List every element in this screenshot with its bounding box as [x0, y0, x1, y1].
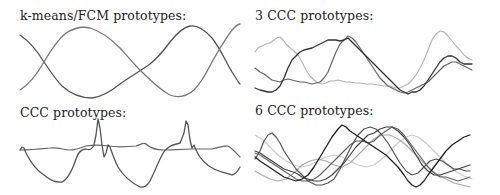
panel-6-ccc: 6 CCC prototypes: — [250, 95, 500, 195]
series-line — [20, 24, 240, 97]
series-line — [20, 26, 240, 98]
series-line — [20, 119, 240, 187]
series-line — [20, 143, 240, 157]
line-plot — [0, 95, 250, 195]
panel-ccc: CCC prototypes: — [0, 95, 250, 195]
line-plot — [250, 95, 500, 195]
line-plot — [0, 0, 250, 100]
series-line — [255, 127, 470, 185]
series-line — [255, 36, 472, 93]
panel-3-ccc: 3 CCC prototypes: — [250, 0, 500, 100]
series-line — [255, 38, 472, 94]
line-plot — [250, 0, 500, 100]
panel-kmeans-fcm: k-means/FCM prototypes: — [0, 0, 250, 100]
